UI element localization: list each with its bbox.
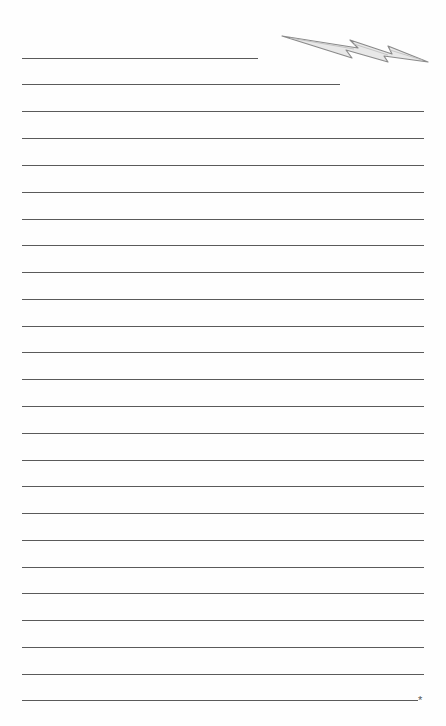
- notepaper-page: *: [0, 0, 446, 726]
- ruled-line: [22, 326, 424, 327]
- ruled-line: [22, 219, 424, 220]
- ruled-line: [22, 299, 424, 300]
- ruled-line: [22, 513, 424, 514]
- ruled-line: [22, 674, 424, 675]
- star-mark: *: [418, 695, 422, 706]
- ruled-line: [22, 540, 424, 541]
- ruled-line: [22, 700, 418, 701]
- ruled-line: [22, 486, 424, 487]
- ruled-line: [22, 406, 424, 407]
- ruled-line: [22, 352, 424, 353]
- ruled-line: [22, 111, 424, 112]
- ruled-line: [22, 272, 424, 273]
- ruled-line: [22, 192, 424, 193]
- ruled-line: [22, 138, 424, 139]
- ruled-line: [22, 379, 424, 380]
- ruled-line: [22, 433, 424, 434]
- ruled-line: [22, 84, 340, 85]
- lightning-bolt-icon: [280, 28, 430, 68]
- ruled-line: [22, 460, 424, 461]
- ruled-line: [22, 245, 424, 246]
- ruled-line: [22, 647, 424, 648]
- ruled-line: [22, 58, 258, 59]
- ruled-line: [22, 165, 424, 166]
- ruled-line: [22, 567, 424, 568]
- ruled-line: [22, 620, 424, 621]
- ruled-line: [22, 593, 424, 594]
